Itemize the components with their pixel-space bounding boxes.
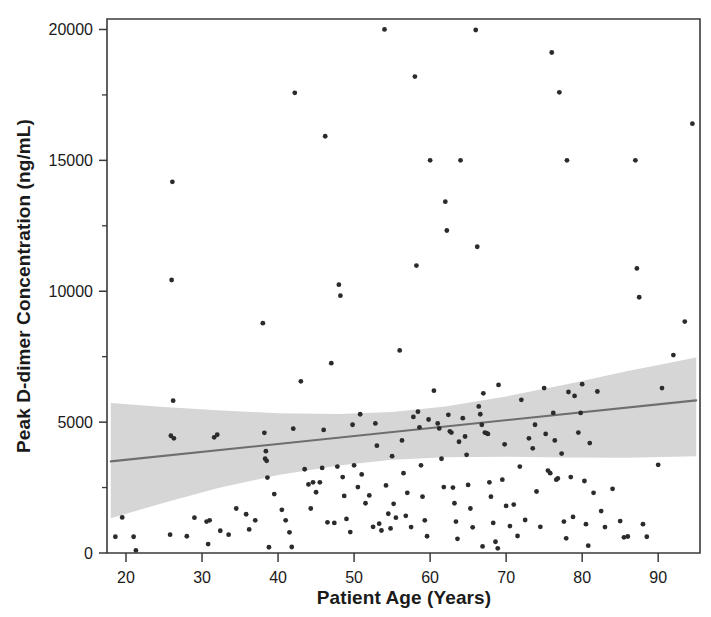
data-point [637, 295, 642, 300]
data-point [390, 454, 395, 459]
data-point [171, 398, 176, 403]
data-point [466, 483, 471, 488]
data-point [371, 524, 376, 529]
data-point [644, 534, 649, 539]
data-point [571, 514, 576, 519]
data-point [287, 530, 292, 535]
data-point [587, 441, 592, 446]
data-point [584, 522, 589, 527]
data-point [207, 518, 212, 523]
data-point [500, 477, 505, 482]
data-point [502, 442, 507, 447]
y-tick-label: 0 [84, 545, 93, 562]
data-point [660, 386, 665, 391]
data-point [591, 490, 596, 495]
data-point [394, 515, 399, 520]
data-point [386, 511, 391, 516]
data-point [335, 464, 340, 469]
data-point [401, 471, 406, 476]
data-point [428, 158, 433, 163]
data-point [413, 74, 418, 79]
x-tick-label: 70 [497, 569, 515, 586]
data-point [555, 476, 560, 481]
data-point [517, 464, 522, 469]
data-point [548, 471, 553, 476]
data-point [487, 480, 492, 485]
data-point [263, 449, 268, 454]
data-point [595, 389, 600, 394]
data-point [633, 158, 638, 163]
data-point [120, 515, 125, 520]
data-point [530, 446, 535, 451]
x-tick-label: 90 [649, 569, 667, 586]
x-tick-label: 50 [345, 569, 363, 586]
data-point [599, 509, 604, 514]
data-point [533, 422, 538, 427]
x-tick-label: 30 [193, 569, 211, 586]
data-point [437, 426, 442, 431]
data-point [262, 430, 267, 435]
data-point [405, 490, 410, 495]
data-point [543, 432, 548, 437]
data-point [439, 456, 444, 461]
data-point [279, 507, 284, 512]
data-point [348, 530, 353, 535]
data-point [603, 525, 608, 530]
data-point [306, 482, 311, 487]
data-point [184, 534, 189, 539]
data-point [523, 518, 528, 523]
data-point [508, 524, 513, 529]
data-point [473, 28, 478, 33]
data-point [388, 526, 393, 531]
data-point [363, 501, 368, 506]
y-tick-labels: 05000100001500020000 [49, 21, 94, 562]
data-point [409, 525, 414, 530]
data-point [325, 520, 330, 525]
data-point [417, 425, 422, 430]
y-tick-label: 10000 [49, 283, 94, 300]
data-point [384, 483, 389, 488]
data-point [485, 432, 490, 437]
data-point [551, 411, 556, 416]
x-tick-label: 80 [573, 569, 591, 586]
x-tick-label: 60 [421, 569, 439, 586]
data-point [470, 525, 475, 530]
data-point [206, 542, 211, 547]
data-point [298, 379, 303, 384]
data-point [682, 319, 687, 324]
data-point [192, 515, 197, 520]
data-point [557, 90, 562, 95]
data-point [495, 546, 500, 551]
data-point [496, 383, 501, 388]
data-point [264, 458, 269, 463]
data-point [426, 417, 431, 422]
data-point [564, 536, 569, 541]
data-point [460, 416, 465, 421]
data-point [323, 134, 328, 139]
data-point [519, 397, 524, 402]
data-point [391, 501, 396, 506]
data-point [403, 513, 408, 518]
data-point [559, 451, 564, 456]
data-point [580, 382, 585, 387]
data-point [534, 489, 539, 494]
data-point [432, 388, 437, 393]
data-point [476, 404, 481, 409]
data-point [635, 266, 640, 271]
data-point [489, 494, 494, 499]
data-point [479, 422, 484, 427]
data-point [321, 428, 326, 433]
data-point [449, 430, 454, 435]
data-point [350, 422, 355, 427]
data-point [562, 519, 567, 524]
data-point [420, 494, 425, 499]
data-point [218, 528, 223, 533]
data-point [234, 506, 239, 511]
x-tick-labels: 2030405060708090 [117, 569, 667, 586]
data-point [342, 494, 347, 499]
data-point [425, 534, 430, 539]
data-point [131, 534, 136, 539]
data-point [422, 518, 427, 523]
data-point [260, 321, 265, 326]
data-point [493, 539, 498, 544]
